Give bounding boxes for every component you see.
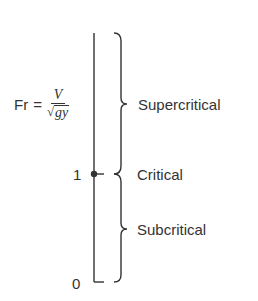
formula-denominator: √ gy xyxy=(47,104,69,120)
formula-lhs: Fr xyxy=(14,96,28,113)
formula-equals: = xyxy=(33,96,42,113)
subcritical-brace xyxy=(114,174,127,282)
region-label-supercritical: Supercritical xyxy=(138,97,221,112)
region-label-subcritical: Subcritical xyxy=(137,222,206,237)
tick-label-zero: 0 xyxy=(72,276,80,291)
froude-number-formula: Fr = V √ gy xyxy=(14,88,69,120)
formula-numerator: V xyxy=(51,88,66,104)
diagram-graphics xyxy=(0,0,258,301)
tick-label-one: 1 xyxy=(73,167,81,182)
supercritical-brace xyxy=(114,33,127,174)
formula-radicand: gy xyxy=(54,105,69,120)
region-label-critical: Critical xyxy=(137,167,183,182)
froude-diagram: Fr = V √ gy 1 0 Supercritical Critical S… xyxy=(0,0,258,301)
formula-fraction: V √ gy xyxy=(47,88,69,120)
sqrt-icon: √ xyxy=(47,105,54,118)
